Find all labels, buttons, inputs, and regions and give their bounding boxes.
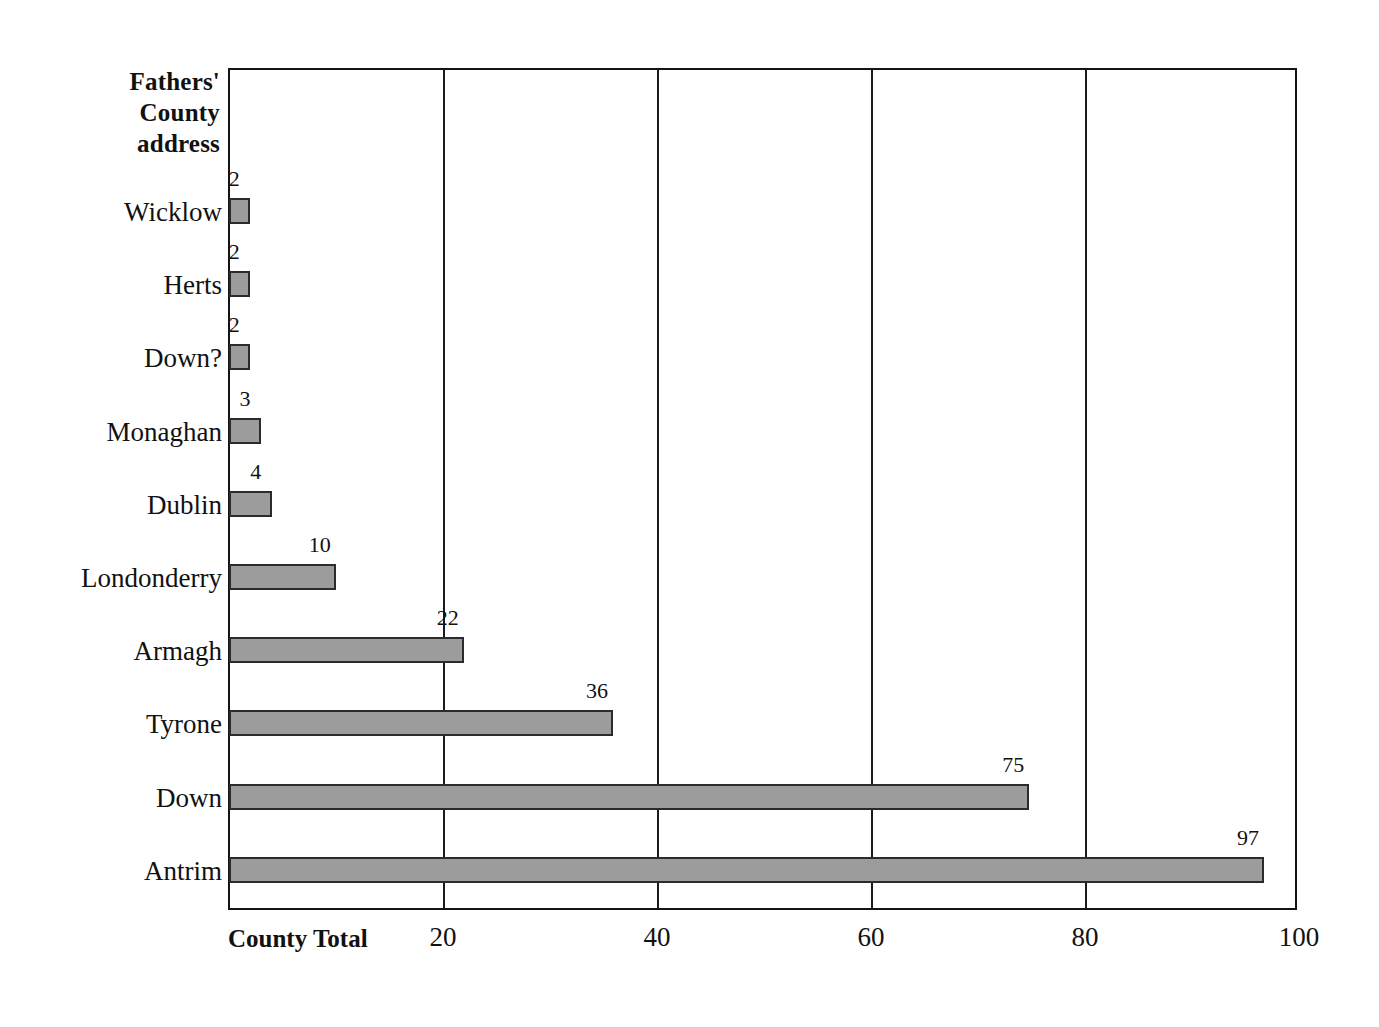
category-label: Tyrone — [0, 711, 222, 738]
category-axis-title-line-1: Fathers' — [40, 66, 220, 97]
bar — [229, 344, 250, 370]
bar — [229, 857, 1264, 883]
bar — [229, 198, 250, 224]
bar-value-label: 75 — [983, 754, 1043, 776]
gridline-40 — [657, 70, 659, 908]
category-label: Down? — [0, 345, 222, 372]
bar — [229, 637, 464, 663]
bar-value-label: 2 — [204, 314, 264, 336]
category-axis-title: Fathers' County address — [40, 66, 220, 159]
gridline-60 — [871, 70, 873, 908]
bar-value-label: 22 — [418, 607, 478, 629]
bar — [229, 271, 250, 297]
gridline-20 — [443, 70, 445, 908]
category-label: Antrim — [0, 858, 222, 885]
x-tick-label-100: 100 — [1254, 922, 1344, 953]
bar — [229, 564, 336, 590]
x-tick-label-40: 40 — [612, 922, 702, 953]
x-tick-label-80: 80 — [1040, 922, 1130, 953]
category-label: Monaghan — [0, 419, 222, 446]
category-label: Wicklow — [0, 199, 222, 226]
bar-value-label: 10 — [290, 534, 350, 556]
bar-value-label: 4 — [226, 461, 286, 483]
bar — [229, 418, 261, 444]
category-label: Down — [0, 785, 222, 812]
category-label: Herts — [0, 272, 222, 299]
bar — [229, 491, 272, 517]
bar — [229, 784, 1029, 810]
x-tick-label-20: 20 — [398, 922, 488, 953]
bar-value-label: 2 — [204, 168, 264, 190]
bar-value-label: 97 — [1218, 827, 1278, 849]
bar — [229, 710, 613, 736]
bar-value-label: 36 — [567, 680, 627, 702]
x-tick-label-60: 60 — [826, 922, 916, 953]
bar-value-label: 2 — [204, 241, 264, 263]
category-label: Londonderry — [0, 565, 222, 592]
category-label: Dublin — [0, 492, 222, 519]
category-axis-title-line-3: address — [40, 128, 220, 159]
bar-chart: Fathers' County address Wicklow2Herts2Do… — [0, 0, 1379, 1027]
category-label: Armagh — [0, 638, 222, 665]
value-axis-title: County Total — [228, 925, 388, 953]
bar-value-label: 3 — [215, 388, 275, 410]
category-axis-title-line-2: County — [40, 97, 220, 128]
gridline-80 — [1085, 70, 1087, 908]
